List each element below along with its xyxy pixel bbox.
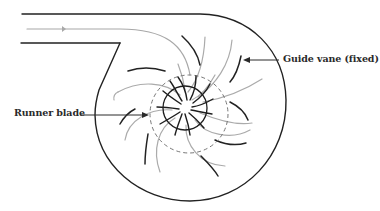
flow-arrow-icon: [62, 26, 66, 32]
guide-vane-label: Guide vane (fixed): [283, 53, 379, 64]
guide-vane-pointer: [243, 57, 279, 63]
flow-streamlines: [114, 37, 262, 172]
runner-blade-pointer: [80, 112, 149, 118]
runner-blade-label: Runner blade: [14, 107, 85, 118]
turbine-diagram: [0, 0, 380, 211]
arrowhead-icon: [243, 57, 250, 63]
